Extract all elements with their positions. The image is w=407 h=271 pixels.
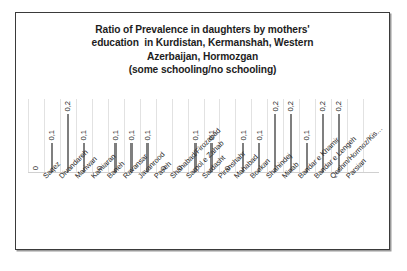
chart-title-line-3: Azerbaijan, Hormozgan (30, 50, 375, 63)
gridline (60, 99, 61, 172)
chart-container: Ratio of Prevalence in daughters by moth… (15, 12, 390, 250)
bar-value-label: 0 (31, 166, 40, 170)
gridline (299, 99, 300, 172)
gridline (124, 99, 125, 172)
gridline (28, 99, 29, 172)
bar-value-label: 0,2 (271, 101, 280, 112)
bar-value-label: 0,1 (302, 130, 311, 141)
chart-slot: 0 (28, 99, 44, 172)
chart-title-line-1: Ratio of Prevalence in daughters by moth… (30, 23, 375, 36)
gridline (172, 99, 173, 172)
bar-value-label: 0,1 (47, 130, 56, 141)
bar-value-label: 0,2 (318, 101, 327, 112)
bar-value-label: 0,2 (63, 101, 72, 112)
bar-value-label: 0,1 (255, 130, 264, 141)
gridline (44, 99, 45, 172)
bar-value-label: 0,1 (111, 130, 120, 141)
bar-value-label: 0,1 (143, 130, 152, 141)
x-axis-tick-labels: SaqezDivandarehMariwanKamiaranBanehRavan… (28, 174, 379, 248)
bar-value-label: 0,1 (191, 130, 200, 141)
bar-value-label: 0,1 (239, 130, 248, 141)
bar-value-label: 0,2 (286, 101, 295, 112)
chart-title: Ratio of Prevalence in daughters by moth… (16, 23, 389, 76)
chart-title-line-2: education in Kurdistan, Kermanshah, West… (30, 36, 375, 49)
bar-value-label: 0,1 (79, 130, 88, 141)
bar-value-label: 0,2 (334, 101, 343, 112)
bar-value-label: 0,1 (127, 130, 136, 141)
chart-title-line-4: (some schooling/no schooling) (30, 63, 375, 76)
